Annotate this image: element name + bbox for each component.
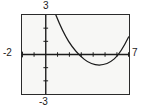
graph-figure: 3 -3 -2 7 — [0, 0, 149, 112]
y-min-label: -3 — [39, 96, 48, 107]
x-max-label: 7 — [132, 47, 138, 58]
plot-frame — [21, 14, 130, 95]
plot-canvas — [22, 15, 129, 94]
parabola-curve — [56, 15, 129, 65]
x-min-label: -2 — [3, 47, 12, 58]
y-max-label: 3 — [43, 0, 49, 11]
